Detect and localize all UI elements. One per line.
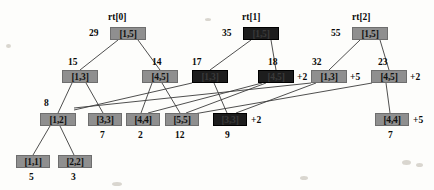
node-sum-label: 7 bbox=[100, 130, 105, 140]
tree-node[interactable]: [4,5] bbox=[258, 70, 294, 83]
tree-node[interactable]: [4,5] bbox=[371, 70, 407, 83]
tree-edge bbox=[86, 83, 103, 113]
tree-edge bbox=[141, 83, 152, 113]
node-sum-label: 35 bbox=[222, 28, 232, 38]
node-sum-label: 15 bbox=[68, 57, 78, 67]
tree-node[interactable]: [1,2] bbox=[40, 113, 76, 126]
node-sum-label: 12 bbox=[175, 130, 185, 140]
tree-edge bbox=[58, 83, 72, 113]
tree-edge bbox=[236, 83, 316, 113]
tree-node[interactable]: [3,3] bbox=[88, 113, 122, 126]
node-sum-label: 32 bbox=[312, 57, 322, 67]
scan-speck bbox=[205, 18, 211, 21]
scan-speck bbox=[6, 44, 11, 48]
scan-speck bbox=[402, 160, 411, 165]
node-sum-label: 2 bbox=[138, 130, 143, 140]
tree-node[interactable]: [4,4] bbox=[375, 113, 409, 126]
tree-node[interactable]: [2,2] bbox=[58, 155, 92, 168]
tree-node[interactable]: [1,1] bbox=[16, 155, 50, 168]
node-sum-label: 9 bbox=[225, 130, 230, 140]
node-sum-label: 55 bbox=[331, 28, 341, 38]
tree-node[interactable]: [1,3] bbox=[62, 70, 98, 83]
node-sum-label: 18 bbox=[268, 57, 278, 67]
tree-node[interactable]: [4,5] bbox=[142, 70, 178, 83]
scan-speck bbox=[112, 182, 122, 186]
node-delta-label: +2 bbox=[410, 72, 420, 82]
tree-node[interactable]: [1,3] bbox=[192, 70, 228, 83]
tree-node[interactable]: [1,3] bbox=[311, 70, 347, 83]
node-sum-label: 14 bbox=[152, 57, 162, 67]
node-delta-label: +2 bbox=[251, 115, 261, 125]
scan-speck bbox=[300, 176, 308, 180]
tree-edge bbox=[74, 83, 311, 108]
tree-edge bbox=[386, 83, 390, 113]
tree-node[interactable]: [5,5] bbox=[165, 113, 199, 126]
root-pointer-label: rt[1] bbox=[242, 12, 260, 22]
root-pointer-label: rt[0] bbox=[108, 12, 126, 22]
tree-node[interactable]: [4,4] bbox=[126, 113, 160, 126]
node-sum-label: 23 bbox=[378, 57, 388, 67]
node-sum-label: 29 bbox=[89, 28, 99, 38]
node-sum-label: 17 bbox=[192, 57, 202, 67]
tree-edge bbox=[80, 40, 118, 70]
tree-edge bbox=[60, 126, 74, 155]
diagram-canvas: [1,5][1,5][1,5][1,3][4,5][1,3][4,5][1,3]… bbox=[0, 0, 434, 190]
node-delta-label: +2 bbox=[297, 72, 307, 82]
tree-edge bbox=[210, 40, 251, 70]
node-sum-label: 5 bbox=[29, 172, 34, 182]
node-sum-label: 8 bbox=[44, 98, 49, 108]
tree-node[interactable]: [3,3] bbox=[213, 113, 247, 126]
tree-node[interactable]: [1,5] bbox=[352, 27, 388, 40]
tree-node[interactable]: [1,5] bbox=[243, 27, 279, 40]
node-sum-label: 7 bbox=[388, 130, 393, 140]
scan-speck bbox=[416, 163, 423, 167]
root-pointer-label: rt[2] bbox=[352, 12, 370, 22]
node-delta-label: +5 bbox=[413, 115, 423, 125]
tree-edge bbox=[33, 126, 50, 155]
tree-node[interactable]: [1,5] bbox=[110, 27, 146, 40]
tree-edge bbox=[329, 40, 360, 70]
node-sum-label: 3 bbox=[71, 172, 76, 182]
node-delta-label: +5 bbox=[350, 72, 360, 82]
